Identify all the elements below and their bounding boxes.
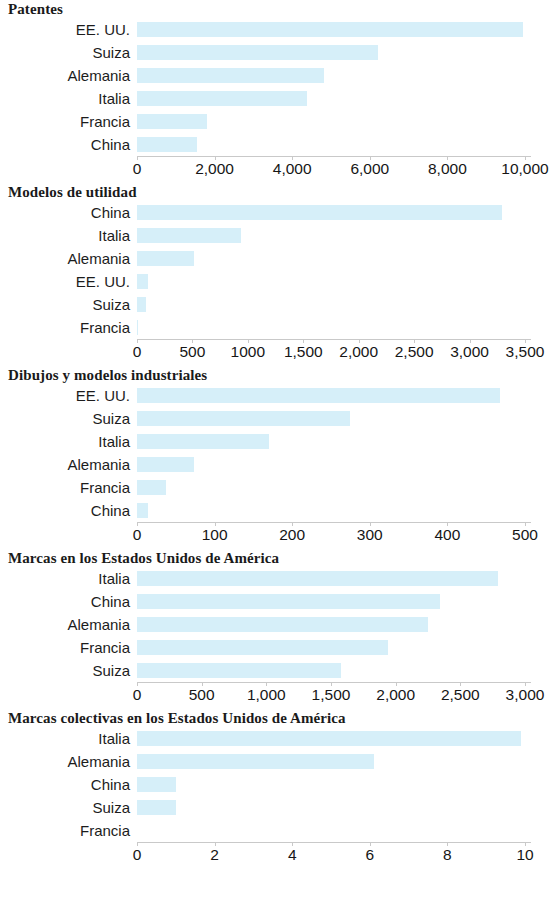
bar: [137, 640, 388, 655]
bar-row: Suiza: [0, 41, 555, 64]
category-label: Suiza: [0, 44, 130, 61]
bar-row: EE. UU.: [0, 18, 555, 41]
tick-label: 0: [133, 160, 142, 178]
tick-label: 1,000: [247, 686, 286, 704]
tick-label: 8: [443, 846, 452, 864]
bar-row: Francia: [0, 476, 555, 499]
bar-track: [130, 247, 555, 270]
charts-container: PatentesEE. UU.SuizaAlemaniaItaliaFranci…: [0, 0, 555, 869]
chart-title: Dibujos y modelos industriales: [0, 366, 555, 384]
tick-label: 2: [210, 846, 219, 864]
chart-block: Dibujos y modelos industrialesEE. UU.Sui…: [0, 366, 555, 549]
bar: [137, 503, 148, 518]
tick-label: 200: [279, 526, 305, 544]
plot-area: EE. UU.SuizaAlemaniaItaliaFranciaChina02…: [0, 18, 555, 183]
category-label: Alemania: [0, 456, 130, 473]
charts-page: PatentesEE. UU.SuizaAlemaniaItaliaFranci…: [0, 0, 555, 923]
bar-track: [130, 750, 555, 773]
category-label: Suiza: [0, 296, 130, 313]
bar: [137, 480, 166, 495]
bar: [137, 274, 148, 289]
bar-track: [130, 613, 555, 636]
category-label: Suiza: [0, 662, 130, 679]
bar-row: Alemania: [0, 64, 555, 87]
bar: [137, 434, 269, 449]
bar-track: [130, 133, 555, 156]
category-label: Francia: [0, 479, 130, 496]
bar-track: [130, 567, 555, 590]
tick-label: 500: [179, 343, 205, 361]
bar: [137, 22, 523, 37]
bar-row: Italia: [0, 727, 555, 750]
tick-label: 500: [189, 686, 215, 704]
bar-row: China: [0, 201, 555, 224]
category-label: Alemania: [0, 616, 130, 633]
category-label: Suiza: [0, 410, 130, 427]
bar-track: [130, 224, 555, 247]
bar: [137, 457, 194, 472]
category-label: Alemania: [0, 250, 130, 267]
bar-track: [130, 270, 555, 293]
bar: [137, 91, 307, 106]
tick-label: 0: [133, 343, 142, 361]
bar: [137, 251, 194, 266]
bar-track: [130, 87, 555, 110]
tick-label: 1000: [231, 343, 265, 361]
bar-row: Italia: [0, 430, 555, 453]
category-label: Italia: [0, 433, 130, 450]
bar-track: [130, 727, 555, 750]
bar-row: Suiza: [0, 659, 555, 682]
tick-label: 0: [133, 526, 142, 544]
category-label: Italia: [0, 730, 130, 747]
bar-track: [130, 201, 555, 224]
bar-row: EE. UU.: [0, 384, 555, 407]
category-label: Alemania: [0, 67, 130, 84]
bar-track: [130, 476, 555, 499]
tick-label: 100: [202, 526, 228, 544]
bar-row: Suiza: [0, 293, 555, 316]
bar: [137, 663, 341, 678]
bar-row: China: [0, 499, 555, 522]
bar-track: [130, 819, 555, 842]
bar: [137, 571, 498, 586]
bar-row: Francia: [0, 819, 555, 842]
chart-title: Patentes: [0, 0, 555, 18]
chart-block: Marcas en los Estados Unidos de AméricaI…: [0, 549, 555, 709]
bar: [137, 777, 176, 792]
category-label: Alemania: [0, 753, 130, 770]
bar: [137, 594, 440, 609]
bar: [137, 320, 138, 335]
category-label: Francia: [0, 113, 130, 130]
bar: [137, 800, 176, 815]
x-axis-ticks: 0246810: [0, 843, 555, 869]
bar: [137, 617, 428, 632]
bar-track: [130, 796, 555, 819]
bar-track: [130, 110, 555, 133]
tick-label: 6,000: [350, 160, 389, 178]
tick-label: 400: [434, 526, 460, 544]
x-axis-ticks: 02,0004,0006,0008,00010,000: [0, 157, 555, 183]
tick-label: 1,500: [284, 343, 323, 361]
x-axis-ticks: 05001,0001,5002,0002,5003,000: [0, 683, 555, 709]
tick-label: 300: [357, 526, 383, 544]
tick-label: 4,000: [273, 160, 312, 178]
chart-block: Marcas colectivas en los Estados Unidos …: [0, 709, 555, 869]
bar-row: Francia: [0, 636, 555, 659]
category-label: Francia: [0, 822, 130, 839]
bar-row: China: [0, 133, 555, 156]
chart-title: Modelos de utilidad: [0, 183, 555, 201]
tick-label: 0: [133, 846, 142, 864]
tick-label: 8,000: [428, 160, 467, 178]
category-label: Italia: [0, 227, 130, 244]
category-label: China: [0, 136, 130, 153]
plot-area: EE. UU.SuizaItaliaAlemaniaFranciaChina01…: [0, 384, 555, 549]
bar: [137, 137, 197, 152]
category-label: China: [0, 502, 130, 519]
bar-row: Suiza: [0, 407, 555, 430]
bar-row: Italia: [0, 224, 555, 247]
chart-block: PatentesEE. UU.SuizaAlemaniaItaliaFranci…: [0, 0, 555, 183]
tick-label: 6: [365, 846, 374, 864]
bar-track: [130, 41, 555, 64]
bar-row: Italia: [0, 87, 555, 110]
category-label: China: [0, 593, 130, 610]
